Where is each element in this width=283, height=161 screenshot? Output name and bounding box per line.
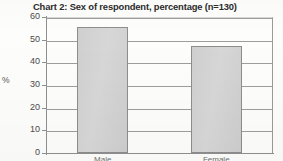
y-tick-mark [42, 130, 47, 131]
y-tick-label: 60 [0, 11, 40, 21]
y-tick-label: 30 [0, 79, 40, 89]
chart-title: Chart 2: Sex of respondent, percentage (… [33, 0, 273, 13]
category-label: Female [191, 155, 242, 161]
y-tick-label: 0 [0, 147, 40, 157]
bar [77, 27, 128, 153]
y-tick-label: 50 [0, 34, 40, 44]
y-tick-label: 10 [0, 124, 40, 134]
y-tick-mark [42, 40, 47, 41]
y-tick-label: 40 [0, 56, 40, 66]
y-tick-mark [42, 62, 47, 63]
bar-fill [192, 47, 241, 152]
y-tick-mark [42, 108, 47, 109]
bar [191, 46, 242, 153]
y-tick-mark [42, 153, 47, 154]
y-tick-mark [42, 85, 47, 86]
x-axis-line [46, 153, 274, 154]
gridline [46, 18, 272, 19]
category-label: Male [77, 155, 128, 161]
y-tick-label: 20 [0, 102, 40, 112]
y-tick-mark [42, 17, 47, 18]
plot-area [46, 17, 273, 153]
chart-figure: Chart 2: Sex of respondent, percentage (… [0, 0, 283, 161]
bar-fill [78, 28, 127, 152]
